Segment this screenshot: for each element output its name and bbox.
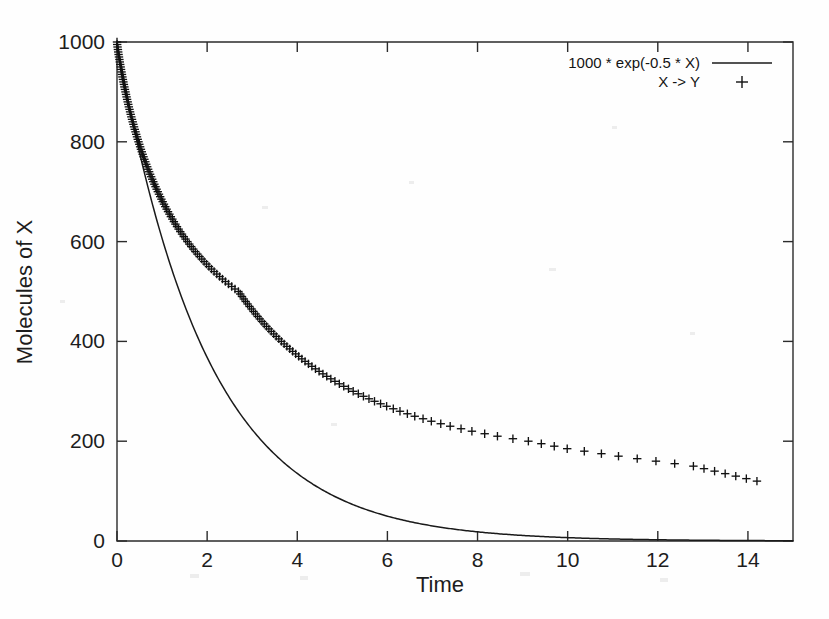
data-point-marker bbox=[437, 420, 445, 428]
x-tick-label: 14 bbox=[736, 548, 760, 571]
chart-legend: 1000 * exp(-0.5 * X)X -> Y bbox=[568, 54, 772, 90]
data-point-marker bbox=[732, 472, 740, 480]
legend-label: X -> Y bbox=[658, 73, 700, 90]
data-point-marker bbox=[427, 417, 435, 425]
data-point-marker bbox=[468, 427, 476, 435]
data-point-marker bbox=[753, 477, 761, 485]
y-tick-label: 0 bbox=[93, 529, 105, 552]
data-point-marker bbox=[633, 454, 641, 462]
x-tick-label: 6 bbox=[382, 548, 394, 571]
data-point-marker bbox=[742, 474, 750, 482]
legend-plus-swatch bbox=[736, 76, 748, 88]
data-point-marker bbox=[710, 467, 718, 475]
data-point-marker bbox=[480, 430, 488, 438]
data-point-marker bbox=[403, 410, 411, 418]
x-tick-label: 10 bbox=[556, 548, 579, 571]
data-point-marker bbox=[721, 469, 729, 477]
data-point-marker bbox=[580, 447, 588, 455]
x-tick-label: 12 bbox=[646, 548, 669, 571]
data-point-marker bbox=[597, 449, 605, 457]
data-point-marker bbox=[689, 462, 697, 470]
data-point-marker bbox=[614, 452, 622, 460]
data-point-marker bbox=[411, 412, 419, 420]
data-point-marker bbox=[419, 415, 427, 423]
data-point-marker bbox=[446, 422, 454, 430]
data-point-marker bbox=[700, 464, 708, 472]
data-point-marker bbox=[550, 442, 558, 450]
data-point-marker bbox=[509, 435, 517, 443]
series-simulation-markers bbox=[113, 38, 761, 486]
data-point-marker bbox=[537, 439, 545, 447]
y-tick-label: 1000 bbox=[58, 30, 105, 53]
x-axis-title: Time bbox=[416, 572, 464, 597]
data-point-marker bbox=[652, 457, 660, 465]
y-axis-ticks: 02004006008001000 bbox=[58, 30, 793, 552]
y-tick-label: 400 bbox=[70, 329, 105, 352]
y-tick-label: 800 bbox=[70, 130, 105, 153]
x-tick-label: 4 bbox=[291, 548, 303, 571]
y-axis-title: Molecules of X bbox=[12, 220, 37, 365]
chart-container: 02004006008001000 02468101214 1000 * exp… bbox=[0, 0, 829, 619]
y-tick-label: 600 bbox=[70, 230, 105, 253]
data-point-marker bbox=[457, 425, 465, 433]
data-point-marker bbox=[670, 459, 678, 467]
legend-label: 1000 * exp(-0.5 * X) bbox=[568, 54, 700, 71]
data-point-marker bbox=[524, 437, 532, 445]
x-tick-label: 8 bbox=[472, 548, 484, 571]
x-tick-label: 0 bbox=[111, 548, 123, 571]
data-point-marker bbox=[493, 432, 501, 440]
y-tick-label: 200 bbox=[70, 429, 105, 452]
x-tick-label: 2 bbox=[201, 548, 213, 571]
data-point-marker bbox=[563, 444, 571, 452]
chart-svg: 02004006008001000 02468101214 1000 * exp… bbox=[0, 0, 829, 619]
x-axis-ticks: 02468101214 bbox=[111, 42, 760, 571]
